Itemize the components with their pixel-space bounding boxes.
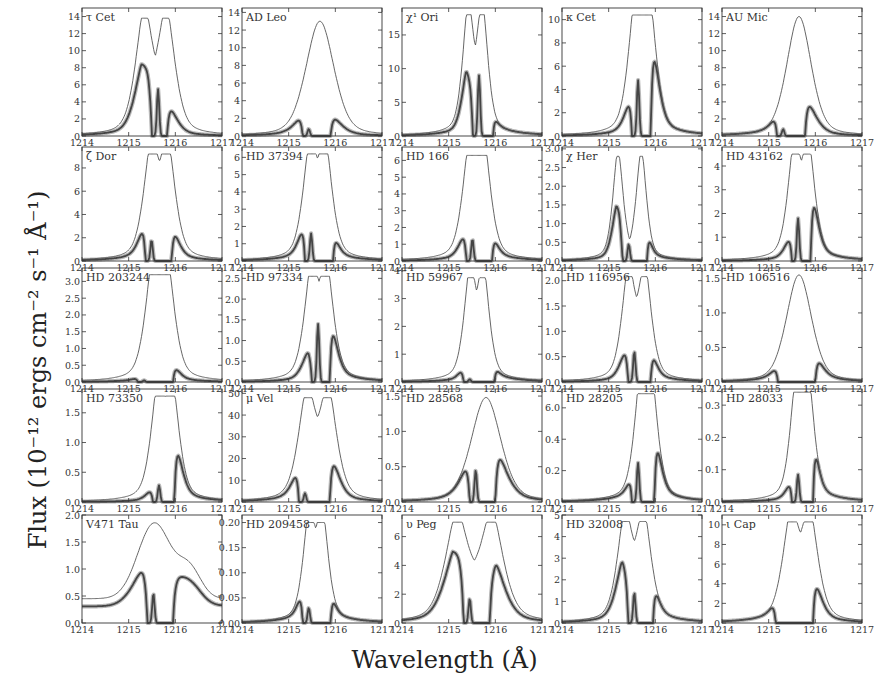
x-tick-label: 1216 [643,137,667,148]
y-tick-label: 2 [394,222,400,233]
panel: 12141215121612170.00.51.01.52.0V471 Tau [65,510,234,636]
y-tick-label: 6 [234,152,240,163]
y-tick-label: 8 [74,62,80,73]
y-tick-label: 15 [388,29,400,40]
y-tick-label: 2.5 [225,273,240,284]
panel-frame [242,515,382,623]
x-tick-label: 1217 [850,624,874,635]
panel: 12141215121612170246υ Peg [390,515,554,635]
y-tick-label: 0 [714,256,720,267]
plot-canvas: 121412151216121702468101214τ Cet12141215… [0,0,889,700]
y-tick-label: 30 [228,431,240,442]
y-tick-label: 2.5 [545,162,560,173]
y-tick-label: 2 [394,321,400,332]
y-tick-label: 0.0 [705,377,720,388]
intrinsic-profile-line [722,522,862,621]
x-tick-label: 1215 [437,137,461,148]
y-tick-label: 0.5 [65,591,80,602]
y-tick-label: 0 [74,256,80,267]
panel: 12141215121612170.00.51.01.5HD 106516 [705,268,874,394]
y-tick-label: 10 [388,63,400,74]
y-tick-label: 6 [74,79,80,90]
y-tick-label: 0.5 [545,351,560,362]
panel-frame [402,268,542,382]
y-tick-label: 3 [714,184,720,195]
y-tick-label: 2.0 [545,181,560,192]
y-tick-label: 0.0 [545,256,560,267]
observed-profile-line [402,72,542,136]
y-tick-label: 0.0 [705,497,720,508]
y-tick-label: 2 [714,113,720,124]
x-tick-label: 1216 [483,503,507,514]
y-tick-label: 2.0 [225,294,240,305]
y-tick-label: 0 [714,618,720,629]
y-tick-label: 20 [228,453,240,464]
panel: 121412151216121702468101214τ Cet [68,8,234,148]
y-tick-label: 10 [68,45,80,56]
y-tick-label: 0.2 [545,465,560,476]
panel: 121412151216121701234HD 43162 [710,147,874,273]
star-name-label: HD 73350 [86,392,143,405]
y-tick-label: 10 [708,45,720,56]
x-tick-label: 1216 [483,624,507,635]
y-tick-label: 2.5 [65,293,80,304]
x-tick-label: 1215 [277,503,301,514]
intrinsic-profile-line [82,275,222,381]
y-tick-label: 1.0 [65,343,80,354]
observed-profile-line [242,324,382,382]
panel: 1214121512161217012345HD 32008 [550,510,714,636]
y-tick-label: 4 [394,560,400,571]
y-tick-label: 0.1 [705,464,720,475]
y-tick-label: 0 [714,131,720,142]
star-name-label: V471 Tau [85,518,139,531]
panel-frame [242,8,382,136]
intrinsic-profile-line [82,396,222,501]
x-tick-label: 1216 [803,503,827,514]
x-tick-label: 1216 [323,503,347,514]
observed-profile-line [242,466,382,502]
y-tick-label: 5 [554,510,560,521]
panel: 12141215121612170.00.20.46.0HD 28205 [545,389,714,514]
y-tick-label: 2 [554,574,560,585]
panel: 121412151216121702468ζ Dor [70,147,234,273]
y-tick-label: 3 [234,204,240,215]
star-name-label: HD 116956 [566,271,630,284]
star-name-label: AU Mic [725,11,768,24]
panel: 12141215121612170246810κ Cet [548,8,714,148]
y-tick-label: 4 [714,161,720,172]
intrinsic-profile-line [82,523,222,599]
x-tick-label: 1215 [757,624,781,635]
star-name-label: AD Leo [245,11,287,24]
y-tick-label: 1 [234,238,240,249]
star-name-label: τ Cet [86,11,116,24]
y-tick-label: 6 [394,155,400,166]
y-tick-label: 1 [394,239,400,250]
y-tick-label: 0 [234,497,240,508]
y-tick-label: 6.0 [545,402,560,413]
observed-profile-line [562,562,702,623]
y-tick-label: 0.00 [219,618,240,629]
y-tick-label: 0.15 [219,542,240,553]
y-tick-label: 1.0 [65,564,80,575]
y-tick-label: 0.5 [545,237,560,248]
data-band [562,207,702,262]
panel: 12141215121612170.000.050.100.150.20HD 2… [219,515,394,635]
y-tick-label: 0.20 [219,517,240,528]
y-tick-label: 6 [714,79,720,90]
y-tick-label: 2.0 [65,309,80,320]
x-tick-label: 1216 [643,503,667,514]
panel-frame [82,268,222,382]
observed-profile-line [562,62,702,136]
star-name-label: HD 203244 [86,271,150,284]
y-tick-label: 50 [228,388,240,399]
y-tick-label: 0.4 [545,434,560,445]
panel: 12141215121612170123456HD 166 [390,147,554,273]
panel: 121412151216121702468101214AU Mic [708,8,874,148]
y-tick-label: 12 [68,28,80,39]
star-name-label: χ¹ Ori [406,11,439,24]
y-tick-label: 1.5 [225,314,240,325]
x-tick-label: 1215 [757,503,781,514]
y-tick-label: 12 [708,28,720,39]
y-tick-label: 10 [548,14,560,25]
x-tick-label: 1215 [597,137,621,148]
